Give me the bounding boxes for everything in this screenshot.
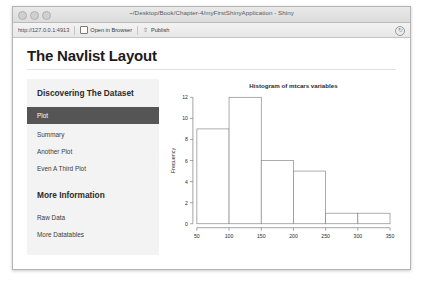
sidebar-item-even-a-third-plot[interactable]: Even A Third Plot bbox=[27, 160, 159, 177]
window-title: ~/Desktop/Book/Chapter-4/myFirstShinyApp… bbox=[13, 9, 410, 16]
histogram-bar bbox=[293, 171, 325, 224]
sidebar-item-label: Raw Data bbox=[37, 214, 65, 221]
sidebar-item-label: Summary bbox=[37, 131, 64, 138]
sidebar-item-another-plot[interactable]: Another Plot bbox=[27, 143, 159, 160]
page-body: Discovering The Dataset Plot Summary Ano… bbox=[13, 79, 410, 255]
y-axis-tick-label: 2 bbox=[185, 200, 188, 206]
y-axis-tick-label: 0 bbox=[185, 221, 188, 227]
y-axis-tick-label: 4 bbox=[185, 179, 188, 185]
x-axis-tick-label: 100 bbox=[225, 233, 234, 239]
y-axis-tick-label: 12 bbox=[182, 94, 188, 100]
sidebar-item-label: Plot bbox=[37, 112, 48, 119]
histogram-bar bbox=[261, 161, 293, 224]
publish-upload-icon: ⇧ bbox=[143, 27, 149, 33]
navlist-group-header-2: More Information bbox=[27, 190, 159, 200]
toolbar-divider-2 bbox=[137, 26, 138, 35]
plot-panel: Histogram of mtcars variables024681012Fr… bbox=[159, 79, 396, 255]
x-axis-tick-label: 200 bbox=[289, 233, 298, 239]
sidebar-item-more-datatables[interactable]: More Datatables bbox=[27, 226, 159, 243]
x-axis-tick-label: 250 bbox=[321, 233, 330, 239]
histogram-bar bbox=[326, 213, 358, 224]
y-axis-label: Frequency bbox=[170, 148, 176, 174]
screenshot-root: ~/Desktop/Book/Chapter-4/myFirstShinyApp… bbox=[0, 0, 421, 282]
y-axis-tick-label: 6 bbox=[185, 158, 188, 164]
sidebar-item-label: Even A Third Plot bbox=[37, 165, 86, 172]
browser-window-icon bbox=[80, 26, 88, 34]
histogram-bar bbox=[358, 213, 390, 224]
navlist-panel: Discovering The Dataset Plot Summary Ano… bbox=[27, 79, 159, 255]
refresh-icon[interactable]: ↻ bbox=[395, 26, 405, 36]
publish-button[interactable]: ⇧ Publish bbox=[143, 27, 169, 33]
x-axis-tick-label: 300 bbox=[354, 233, 363, 239]
page-title-wrap: The Navlist Layout bbox=[27, 47, 396, 69]
chart-title: Histogram of mtcars variables bbox=[249, 82, 338, 89]
sidebar-item-label: More Datatables bbox=[37, 231, 84, 238]
window-titlebar[interactable]: ~/Desktop/Book/Chapter-4/myFirstShinyApp… bbox=[13, 7, 410, 23]
publish-label: Publish bbox=[151, 27, 169, 33]
open-in-browser-label: Open in Browser bbox=[90, 27, 132, 33]
title-divider bbox=[27, 69, 396, 70]
histogram-bar bbox=[197, 129, 229, 224]
navlist-group-header: Discovering The Dataset bbox=[27, 88, 159, 98]
x-axis-tick-label: 50 bbox=[194, 233, 200, 239]
app-page: The Navlist Layout Discovering The Datas… bbox=[13, 47, 410, 270]
sidebar-item-summary[interactable]: Summary bbox=[27, 126, 159, 143]
app-toolbar: http://127.0.0.1:4913 Open in Browser ⇧ … bbox=[13, 23, 410, 38]
y-axis-tick-label: 8 bbox=[185, 136, 188, 142]
x-axis-tick-label: 150 bbox=[257, 233, 266, 239]
sidebar-item-label: Another Plot bbox=[37, 148, 72, 155]
shiny-app-window: ~/Desktop/Book/Chapter-4/myFirstShinyApp… bbox=[12, 6, 411, 270]
sidebar-item-raw-data[interactable]: Raw Data bbox=[27, 209, 159, 226]
x-axis-tick-label: 350 bbox=[386, 233, 395, 239]
y-axis-tick-label: 10 bbox=[182, 115, 188, 121]
histogram-bar bbox=[229, 97, 261, 223]
page-title: The Navlist Layout bbox=[27, 47, 396, 69]
toolbar-divider-1 bbox=[74, 26, 75, 35]
histogram-plot: Histogram of mtcars variables024681012Fr… bbox=[167, 79, 396, 254]
open-in-browser-button[interactable]: Open in Browser bbox=[80, 26, 132, 34]
sidebar-item-plot[interactable]: Plot bbox=[27, 107, 159, 124]
address-label[interactable]: http://127.0.0.1:4913 bbox=[13, 27, 69, 33]
